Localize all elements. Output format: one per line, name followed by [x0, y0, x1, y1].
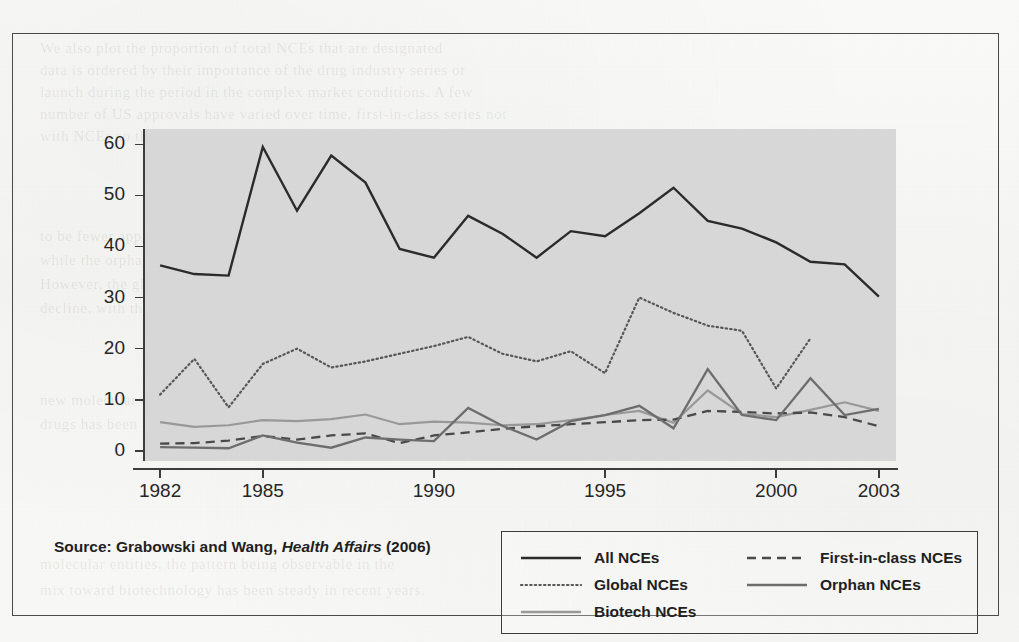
y-axis-label-slot: 0	[81, 439, 125, 461]
figure-frame: 0102030405060 198219851990199520002003 S…	[12, 33, 999, 616]
x-axis-tick	[433, 469, 435, 478]
legend-swatch-solid-medium	[746, 579, 808, 591]
x-axis-tick	[775, 469, 777, 478]
y-axis-tick-label: 50	[81, 183, 125, 205]
y-axis-line	[143, 129, 145, 461]
y-axis-label-slot: 30	[81, 286, 125, 308]
chart-series-svg	[143, 129, 896, 461]
y-axis-label-slot: 40	[81, 234, 125, 256]
x-axis-tick-label: 1985	[228, 480, 298, 502]
legend-item: Orphan NCEs	[746, 571, 972, 598]
x-axis-tick-label: 1982	[125, 480, 195, 502]
y-axis-tick-label: 0	[81, 439, 125, 461]
y-axis-tick-label: 20	[81, 337, 125, 359]
x-axis-line	[133, 468, 898, 470]
x-axis-tick-label: 2003	[844, 480, 914, 502]
source-note: Source: Grabowski and Wang, Health Affai…	[54, 538, 431, 556]
x-axis-tick-label: 1990	[399, 480, 469, 502]
y-axis-tick-label: 40	[81, 234, 125, 256]
y-axis-tick	[135, 450, 143, 452]
source-note-suffix: (2006)	[382, 538, 431, 555]
y-axis-label-slot: 20	[81, 337, 125, 359]
legend-item-label: All NCEs	[594, 549, 659, 567]
y-axis-tick-label: 30	[81, 286, 125, 308]
legend-item-label: Orphan NCEs	[820, 576, 921, 594]
legend-item-label: First-in-class NCEs	[820, 549, 962, 567]
page-background: We also plot the proportion of total NCE…	[0, 0, 1019, 642]
y-axis-tick	[135, 246, 143, 248]
y-axis-tick	[135, 297, 143, 299]
legend-swatch-dotted	[520, 579, 582, 591]
series-line-global-nces	[160, 298, 810, 408]
series-line-all-nces	[160, 147, 879, 297]
x-axis-tick	[262, 469, 264, 478]
legend-grid: All NCEsFirst-in-class NCEsGlobal NCEsOr…	[502, 532, 977, 633]
chart-plot-area	[143, 129, 896, 461]
y-axis-tick	[135, 399, 143, 401]
legend-item-label: Global NCEs	[594, 576, 688, 594]
legend-swatch-solid-dark	[520, 552, 582, 564]
y-axis-tick	[135, 348, 143, 350]
legend-swatch-solid-light	[520, 606, 582, 618]
source-note-prefix: Source: Grabowski and Wang,	[54, 538, 282, 555]
legend-swatch-dashed	[746, 552, 808, 564]
y-axis-label-slot: 60	[81, 132, 125, 154]
legend-item: First-in-class NCEs	[746, 544, 972, 571]
chart-legend: All NCEsFirst-in-class NCEsGlobal NCEsOr…	[501, 531, 978, 634]
x-axis-tick	[159, 469, 161, 478]
x-axis-tick-label: 2000	[741, 480, 811, 502]
x-axis-tick-label: 1995	[570, 480, 640, 502]
legend-item-label: Biotech NCEs	[594, 603, 697, 621]
y-axis-label-slot: 10	[81, 388, 125, 410]
y-axis-tick-label: 60	[81, 132, 125, 154]
legend-item: Biotech NCEs	[520, 598, 746, 625]
x-axis-tick	[604, 469, 606, 478]
series-line-biotech-nces	[160, 391, 879, 427]
y-axis-tick	[135, 195, 143, 197]
y-axis-tick	[135, 144, 143, 146]
legend-item: Global NCEs	[520, 571, 746, 598]
x-axis-tick	[878, 469, 880, 478]
y-axis-label-slot: 50	[81, 183, 125, 205]
source-note-journal: Health Affairs	[282, 538, 382, 555]
y-axis-tick-label: 10	[81, 388, 125, 410]
legend-item: All NCEs	[520, 544, 746, 571]
